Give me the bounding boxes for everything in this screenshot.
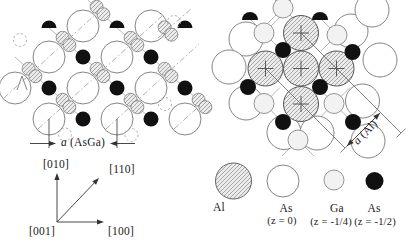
as-zhalf-atom (345, 44, 361, 60)
axis-label-100: [100] (108, 225, 134, 237)
as-zhalf-atom (144, 112, 159, 127)
as-zhalf-atom (345, 114, 361, 130)
ga-bowtie-atom (131, 101, 144, 114)
ga-bowtie-atom (63, 39, 76, 52)
ga-bowtie-atom (165, 70, 178, 83)
legend-label-ga: Ga (330, 202, 344, 214)
ga-bowtie-atom (165, 28, 178, 41)
legend-label-as-zhalf: As (367, 202, 380, 214)
legend-label-as-z0: As (279, 202, 292, 214)
legend-sub-z14: (z = -1/4) (310, 215, 352, 226)
ga-atom (324, 94, 344, 114)
axis-label-110: [110] (109, 163, 134, 175)
ga-atom (288, 130, 308, 150)
as-zhalf-atom (312, 79, 328, 95)
ghost-atom (168, 16, 181, 29)
as-zhalf-atom-half (178, 21, 193, 28)
ga-atom (327, 25, 347, 45)
legend-label-al: Al (213, 201, 225, 213)
axis-010-arrow-head (54, 173, 59, 180)
as-zhalf-atom (42, 81, 57, 96)
as-zhalf-atom-half (242, 12, 258, 20)
as-zhalf-atom (178, 81, 193, 96)
as-z0-atom (135, 72, 167, 104)
legend-sub-z0: (z = 0) (267, 215, 296, 226)
legend-ga-circle (324, 170, 344, 190)
ga-atom (273, 0, 293, 18)
as-zhalf-atom (240, 79, 256, 95)
axis-label-010: [010] (43, 158, 69, 170)
as-zhalf-atom-half (110, 21, 125, 28)
as-z0-atom (363, 43, 397, 77)
a-asga-text: (AsGa) (70, 136, 105, 148)
a-asga-symbol: a (61, 136, 67, 148)
crystal-structure-figure: a (AsGa) [010] [110] [001] [100] a (Al) … (0, 0, 415, 247)
as-z0-atom (346, 84, 380, 118)
as-zhalf-atom (110, 81, 125, 96)
as-zhalf-atom (144, 50, 159, 65)
ga-atom (254, 94, 274, 114)
legend-al-circle (216, 163, 252, 199)
dim-arrow-left-head (49, 141, 56, 146)
ga-bowtie-atom (29, 70, 42, 83)
as-zhalf-atom (275, 114, 291, 130)
as-zhalf-atom (275, 42, 291, 58)
ghost-atom (14, 34, 27, 47)
ga-bowtie-atom (97, 70, 110, 83)
ga-atom (254, 23, 274, 43)
ga-bowtie-atom (97, 8, 110, 21)
ga-bowtie-atom (199, 101, 212, 114)
legend-black-circle (366, 172, 384, 190)
ga-bowtie-atom (63, 101, 76, 114)
as-zhalf-atom-half (312, 12, 328, 20)
as-zhalf-atom-half (42, 21, 57, 28)
axis-110-arrow (57, 180, 97, 222)
legend-as-circle (267, 165, 299, 197)
as-z0-atom (33, 41, 65, 73)
axis-100-arrow-head (97, 219, 104, 224)
as-zhalf-atom (76, 112, 91, 127)
as-z0-atom (212, 50, 246, 84)
as-z0-atom (67, 10, 99, 42)
ga-bowtie-atom (131, 39, 144, 52)
axis-label-001: [001] (29, 225, 55, 237)
dim-arrow-right-head (110, 141, 117, 146)
as-z0-atom (101, 41, 133, 73)
legend-sub-z12: (z = -1/2) (354, 215, 396, 226)
lattice-constant-asga-label: a (AsGa) (61, 136, 105, 148)
as-zhalf-atom (76, 50, 91, 65)
as-z0-atom (67, 72, 99, 104)
diagram-canvas (0, 0, 415, 247)
